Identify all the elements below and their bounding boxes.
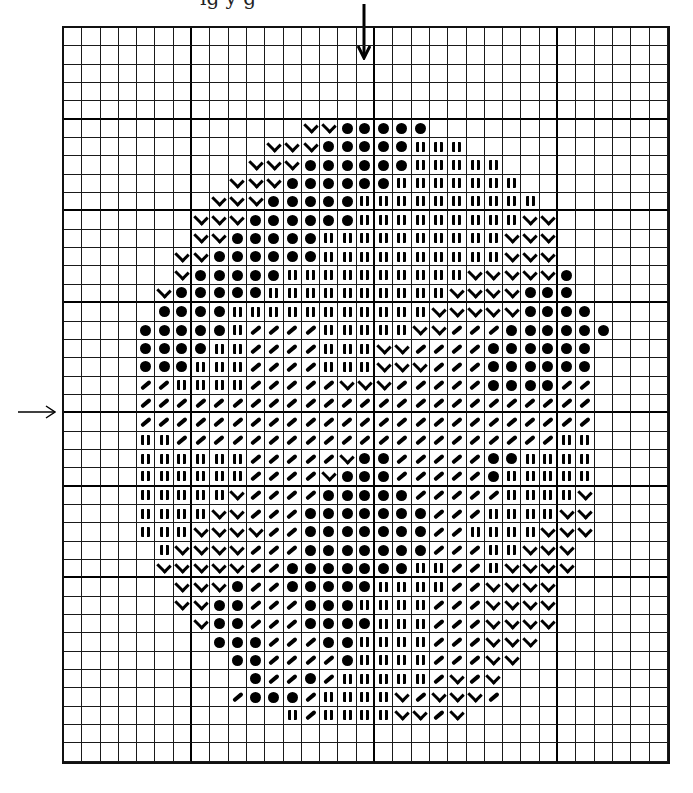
grid-cell: [558, 65, 576, 83]
filled-dot-icon: [393, 156, 411, 174]
grid-cell: [229, 670, 247, 688]
filled-dot-icon: [302, 615, 320, 633]
grid-cell: [137, 597, 155, 615]
filled-dot-icon: [320, 138, 338, 156]
grid-cell: [595, 450, 613, 468]
filled-dot-icon: [375, 450, 393, 468]
grid-cell: [613, 65, 631, 83]
filled-dot-icon: [357, 615, 375, 633]
filled-dot-icon: [485, 450, 503, 468]
grid-cell: [210, 120, 228, 138]
grid-cell: [101, 597, 119, 615]
grid-cell: [613, 578, 631, 596]
check-mark-icon: [485, 303, 503, 321]
double-bar-icon: [375, 266, 393, 284]
slash-icon: [430, 633, 448, 651]
grid-cell: [101, 652, 119, 670]
double-bar-icon: [338, 322, 356, 340]
filled-dot-icon: [247, 670, 265, 688]
filled-dot-icon: [412, 523, 430, 541]
grid-cell: [631, 211, 649, 229]
grid-cell: [521, 688, 539, 706]
double-bar-icon: [540, 505, 558, 523]
grid-cell: [595, 743, 613, 761]
double-bar-icon: [430, 175, 448, 193]
check-mark-icon: [503, 652, 521, 670]
grid-cell: [119, 303, 137, 321]
double-bar-icon: [375, 578, 393, 596]
slash-icon: [412, 450, 430, 468]
filled-dot-icon: [375, 138, 393, 156]
double-bar-icon: [320, 688, 338, 706]
grid-cell: [540, 120, 558, 138]
grid-cell: [613, 542, 631, 560]
grid-cell: [631, 175, 649, 193]
grid-cell: [631, 138, 649, 156]
slash-icon: [430, 707, 448, 725]
grid-cell: [174, 46, 192, 64]
grid-cell: [155, 156, 173, 174]
double-bar-icon: [338, 670, 356, 688]
grid-cell: [338, 46, 356, 64]
double-bar-icon: [467, 230, 485, 248]
filled-dot-icon: [302, 211, 320, 229]
double-bar-icon: [192, 487, 210, 505]
check-mark-icon: [485, 597, 503, 615]
grid-cell: [101, 285, 119, 303]
grid-cell: [393, 46, 411, 64]
filled-dot-icon: [338, 597, 356, 615]
double-bar-icon: [210, 377, 228, 395]
grid-cell: [82, 670, 100, 688]
check-mark-icon: [247, 193, 265, 211]
filled-dot-icon: [485, 358, 503, 376]
slash-icon: [412, 377, 430, 395]
grid-cell: [650, 432, 668, 450]
grid-cell: [82, 615, 100, 633]
grid-cell: [82, 65, 100, 83]
grid-cell: [64, 670, 82, 688]
slash-icon: [430, 670, 448, 688]
check-mark-icon: [576, 523, 594, 541]
grid-cell: [613, 28, 631, 46]
grid-cell: [155, 266, 173, 284]
slash-icon: [375, 413, 393, 431]
check-mark-icon: [393, 707, 411, 725]
grid-cell: [503, 743, 521, 761]
double-bar-icon: [540, 487, 558, 505]
check-mark-icon: [210, 230, 228, 248]
slash-icon: [247, 395, 265, 413]
grid-cell: [558, 120, 576, 138]
filled-dot-icon: [558, 266, 576, 284]
grid-cell: [595, 46, 613, 64]
grid-cell: [64, 156, 82, 174]
filled-dot-icon: [357, 175, 375, 193]
filled-dot-icon: [210, 303, 228, 321]
grid-cell: [137, 230, 155, 248]
grid-cell: [119, 340, 137, 358]
check-mark-icon: [448, 285, 466, 303]
grid-cell: [631, 248, 649, 266]
double-bar-icon: [503, 487, 521, 505]
grid-cell: [155, 615, 173, 633]
grid-cell: [155, 248, 173, 266]
grid-cell: [467, 28, 485, 46]
grid-cell: [82, 633, 100, 651]
slash-icon: [448, 560, 466, 578]
double-bar-icon: [375, 688, 393, 706]
grid-cell: [155, 120, 173, 138]
slash-icon: [521, 395, 539, 413]
filled-dot-icon: [265, 230, 283, 248]
grid-cell: [558, 193, 576, 211]
double-bar-icon: [302, 266, 320, 284]
filled-dot-icon: [247, 211, 265, 229]
grid-cell: [595, 413, 613, 431]
grid-cell: [137, 156, 155, 174]
grid-cell: [174, 65, 192, 83]
grid-cell: [448, 120, 466, 138]
filled-dot-icon: [521, 377, 539, 395]
filled-dot-icon: [302, 156, 320, 174]
slash-icon: [448, 578, 466, 596]
grid-cell: [521, 138, 539, 156]
grid-cell: [613, 395, 631, 413]
filled-dot-icon: [192, 266, 210, 284]
